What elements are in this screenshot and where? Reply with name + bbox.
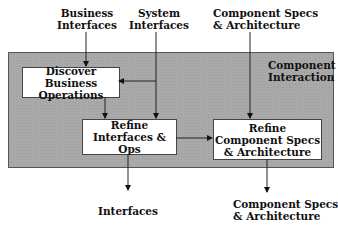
label-line: System [128,7,190,19]
input-system-interfaces: System Interfaces [128,7,190,31]
box-line: Refine [83,119,176,131]
box-line: Component Specs [215,134,320,146]
input-component-specs: Component Specs & Architecture [213,7,318,31]
label-line: Interaction [268,71,336,83]
label-line: Business [52,7,122,19]
output-interfaces: Interfaces [96,205,160,217]
label-line: Component [268,59,336,71]
label-line: & Architecture [213,19,318,31]
label-line: Interfaces [52,19,122,31]
label-line: Component Specs [233,198,338,210]
box-line: Operations [23,89,119,101]
stage-title: Component Interaction [268,59,336,83]
refine-component-specs-box: Refine Component Specs & Architecture [213,119,322,160]
label-line: & Architecture [233,210,338,222]
box-line: Interfaces & Ops [83,131,176,155]
refine-interfaces-ops-box: Refine Interfaces & Ops [82,119,177,155]
label-line: Interfaces [96,205,160,217]
box-line: Discover Business [23,65,119,89]
label-line: Interfaces [128,19,190,31]
discover-business-operations-box: Discover Business Operations [22,67,120,98]
box-line: Refine [215,122,320,134]
output-component-specs: Component Specs & Architecture [233,198,338,222]
input-business-interfaces: Business Interfaces [52,7,122,31]
box-line: & Architecture [215,146,320,158]
label-line: Component Specs [213,7,318,19]
